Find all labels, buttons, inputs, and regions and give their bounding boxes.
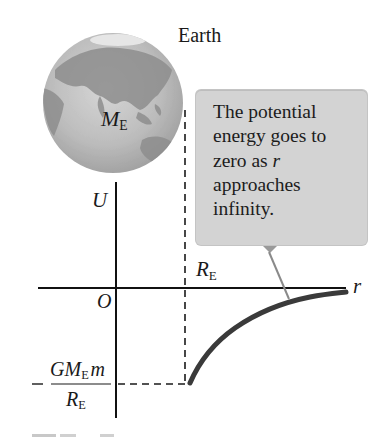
potential-energy-curve (190, 292, 346, 383)
annotation-callout: The potential energy goes to zero as r a… (196, 90, 367, 245)
origin-label: O (97, 290, 111, 313)
earth-radius-label: RE (196, 257, 217, 284)
numerator-M: M (64, 358, 81, 380)
callout-line-4: approaches (213, 173, 326, 197)
callout-line-3: zero as r (213, 149, 326, 173)
callout-line-3-text: zero as (213, 150, 273, 171)
callout-line-2: energy goes to (213, 124, 326, 148)
numerator-subscript: E (81, 368, 89, 382)
u-axis-label: U (92, 188, 107, 213)
callout-variable-r: r (273, 150, 281, 171)
radius-symbol: R (196, 257, 209, 281)
min-energy-denominator: RE (66, 388, 86, 413)
r-axis-label: r (353, 274, 361, 299)
callout-leader-line (269, 252, 289, 299)
radius-subscript: E (209, 268, 217, 283)
earth-label: Earth (178, 24, 221, 47)
numerator-m: m (90, 358, 104, 380)
denominator-subscript: E (78, 398, 86, 412)
earth-globe-icon (43, 33, 183, 173)
denominator-R: R (66, 388, 78, 410)
min-energy-numerator: GME m (50, 358, 105, 383)
callout-line-5: infinity. (213, 197, 326, 221)
callout-text: The potential energy goes to zero as r a… (213, 100, 326, 221)
mass-symbol: M (101, 106, 119, 131)
earth-mass-label: ME (101, 106, 128, 134)
numerator-G: G (50, 358, 64, 380)
callout-line-1: The potential (213, 100, 326, 124)
mass-subscript: E (119, 118, 127, 133)
